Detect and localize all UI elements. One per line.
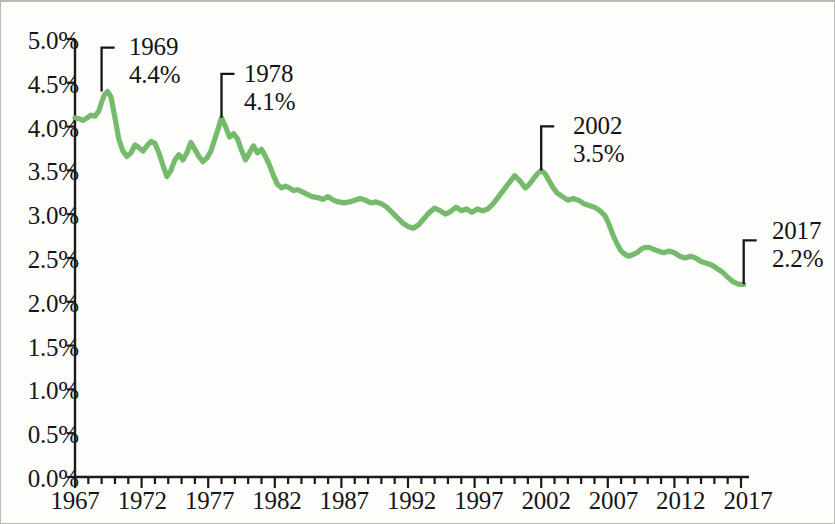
y-axis-tick-label: 4.0%: [0, 116, 79, 141]
annotation-year: 1978: [244, 60, 295, 88]
line-chart-plot: [1, 2, 835, 524]
annotation-2002: 2002 3.5%: [573, 112, 624, 168]
y-axis-tick-label: 1.5%: [0, 335, 79, 360]
y-axis-tick-label: 4.5%: [0, 72, 79, 97]
x-axis-tick-label: 2017: [688, 488, 808, 513]
annotation-year: 2002: [573, 112, 624, 140]
y-axis-tick-label: 2.0%: [0, 291, 79, 316]
y-axis-tick-label: 3.0%: [0, 203, 79, 228]
y-axis-tick-label: 1.0%: [0, 378, 79, 403]
chart-axes: [67, 39, 749, 488]
y-axis-tick-label: 3.5%: [0, 159, 79, 184]
annotation-1969: 1969 4.4%: [129, 33, 180, 89]
annotation-year: 2017: [772, 217, 823, 245]
annotation-year: 1969: [129, 33, 180, 61]
annotation-2017: 2017 2.2%: [772, 217, 823, 273]
annotation-1978: 1978 4.1%: [244, 60, 295, 116]
chart-figure: 5.0% 4.5% 4.0% 3.5% 3.0% 2.5% 2.0% 1.5% …: [0, 0, 835, 524]
annotation-value: 4.4%: [129, 61, 180, 89]
y-axis-tick-label: 0.5%: [0, 422, 79, 447]
y-axis-tick-label: 5.0%: [0, 28, 79, 53]
data-series-line: [75, 92, 744, 285]
y-axis-tick-label: 2.5%: [0, 247, 79, 272]
annotation-value: 2.2%: [772, 245, 823, 273]
annotation-value: 3.5%: [573, 140, 624, 168]
annotation-value: 4.1%: [244, 88, 295, 116]
